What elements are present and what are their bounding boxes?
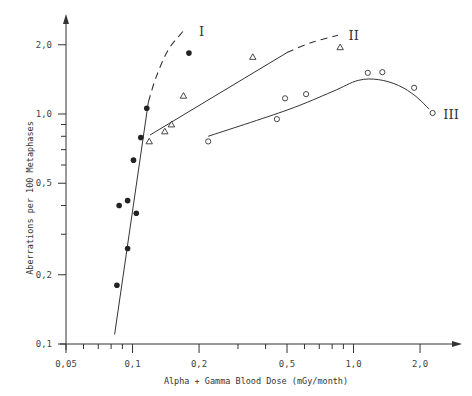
point-open-circle: [365, 70, 370, 75]
x-axis-arrow-icon: [452, 341, 462, 347]
point-filled-circle: [114, 282, 120, 288]
x-tick-label: 0,05: [55, 359, 77, 369]
y-axis-arrow-icon: [63, 14, 69, 24]
point-open-circle: [430, 110, 435, 115]
y-tick-label: 2,0: [36, 40, 52, 50]
point-open-circle: [282, 96, 287, 101]
point-filled-circle: [138, 135, 144, 141]
point-open-circle: [380, 70, 385, 75]
point-open-triangle: [250, 54, 256, 60]
fit-line-solid-III: [208, 79, 429, 136]
y-tick-label: 0,5: [36, 178, 52, 188]
point-open-circle: [303, 92, 308, 97]
point-open-triangle: [180, 93, 186, 99]
chart: 0,10,20,51,02,0 0,050,10,20,51,02,0 IIII…: [0, 0, 472, 396]
point-filled-circle: [125, 246, 131, 252]
y-tick-label: 1,0: [36, 109, 52, 119]
series-label-I: I: [199, 24, 204, 39]
fit-line-dashed-II: [287, 35, 338, 52]
x-tick-label: 2,0: [412, 359, 428, 369]
point-filled-circle: [125, 198, 131, 204]
x-tick-label: 1,0: [345, 359, 361, 369]
point-filled-circle: [186, 50, 192, 56]
y-axis-title: Aberrations per 100 Metaphases: [25, 121, 35, 275]
point-filled-circle: [144, 105, 150, 111]
point-open-circle: [206, 139, 211, 144]
point-filled-circle: [131, 157, 137, 163]
x-ticks: 0,050,10,20,51,02,0: [55, 344, 428, 369]
series-label-II: II: [349, 28, 359, 43]
x-tick-label: 0,2: [191, 359, 207, 369]
y-tick-label: 0,1: [36, 339, 52, 349]
point-open-triangle: [337, 44, 343, 50]
y-ticks: 0,10,20,51,02,0: [36, 40, 66, 349]
series-labels: IIIIII: [199, 24, 459, 122]
point-open-triangle: [146, 138, 152, 144]
point-open-circle: [274, 117, 279, 122]
point-open-circle: [412, 85, 417, 90]
point-open-triangle: [162, 128, 168, 134]
x-axis-title: Alpha + Gamma Blood Dose (mGy/month): [164, 376, 348, 386]
axes: [60, 14, 462, 350]
point-filled-circle: [116, 203, 122, 209]
series-label-III: III: [443, 107, 458, 122]
x-tick-label: 0,5: [279, 359, 295, 369]
data-points: [114, 44, 435, 288]
fit-lines: [115, 31, 430, 335]
point-filled-circle: [133, 211, 139, 217]
point-open-triangle: [168, 121, 174, 127]
y-tick-label: 0,2: [36, 270, 52, 280]
x-tick-label: 0,1: [124, 359, 140, 369]
fit-line-dashed-I: [148, 31, 183, 102]
